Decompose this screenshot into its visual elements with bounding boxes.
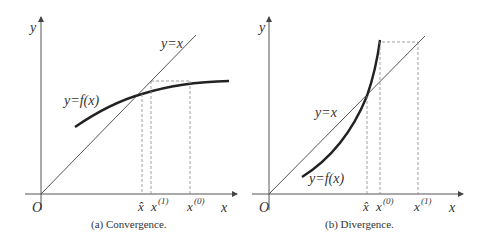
x1-label: x (413, 199, 420, 214)
caption-a: (a) Convergence. (91, 218, 167, 231)
identity-line (269, 36, 425, 194)
fixed-point-label: x̂ (362, 199, 369, 214)
curve-label: y=f(x) (307, 171, 344, 187)
x0-label: x (186, 199, 193, 214)
origin-label: O (259, 200, 269, 215)
identity-line-label: y=x (313, 105, 338, 120)
iteration-dashes (142, 81, 190, 194)
curve-label: y=f(x) (62, 93, 99, 109)
x1-superscript: (1) (421, 196, 432, 206)
x0-label: x (375, 199, 382, 214)
x0-superscript: (0) (383, 196, 394, 206)
origin-label: O (32, 200, 42, 215)
y-axis-label: y (28, 20, 37, 35)
fixed-point-label: x̂ (137, 199, 144, 214)
x0-superscript: (0) (194, 196, 205, 206)
x1-superscript: (1) (158, 196, 169, 206)
caption-b: (b) Divergence. (325, 218, 394, 231)
identity-line (41, 35, 196, 194)
x1-label: x (150, 199, 157, 214)
x-axis-label: x (448, 200, 456, 215)
fixed-point-iteration-diagram: y O x y=x y=f(x) x̂ x (1) x (0) (a) Conv… (0, 0, 486, 241)
x-axis-label: x (220, 200, 228, 215)
panel-convergence: y O x y=x y=f(x) x̂ x (1) x (0) (a) Conv… (25, 17, 237, 231)
function-curve (302, 40, 380, 177)
panel-divergence: y O x y=x y=f(x) x̂ x (0) x (1) (b) Dive… (252, 17, 463, 231)
identity-line-label: y=x (159, 36, 184, 51)
y-axis-label: y (257, 20, 266, 35)
